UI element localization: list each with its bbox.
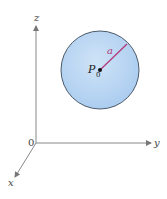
z-axis-label: z [33, 12, 40, 23]
center-subscript: 0 [96, 71, 100, 79]
center-label: P [87, 63, 96, 76]
y-axis-label: y [153, 137, 160, 148]
radius-label: a [107, 45, 113, 56]
origin-label: 0 [28, 137, 34, 148]
x-axis-label: x [8, 177, 14, 188]
sphere-diagram: z y x 0 P 0 a [0, 0, 167, 199]
x-axis [15, 143, 36, 177]
